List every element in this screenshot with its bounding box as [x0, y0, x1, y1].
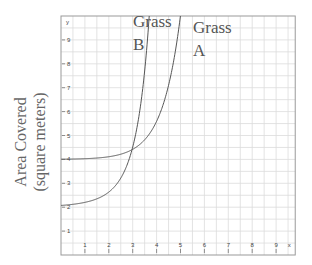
label-grass-a-line2: A [193, 41, 206, 60]
x-axis-letter: x [288, 242, 291, 248]
label-grass-a-line1: Grass [193, 18, 232, 37]
grid [61, 16, 295, 255]
label-grass-b-line1: Grass [133, 12, 172, 31]
y-axis-letter: y [66, 19, 69, 25]
label-grass-b-line2: B [133, 35, 144, 54]
chart-plot: 123456789x123456789yGrassBGrassA [0, 0, 312, 265]
